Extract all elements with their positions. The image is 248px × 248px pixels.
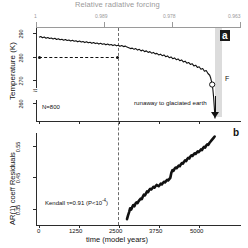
panel-a-temperature-series bbox=[39, 37, 215, 119]
figure-root: Relative radiative forcing 1 0.989 0.978… bbox=[0, 0, 248, 248]
panel-b-ar1-series bbox=[127, 137, 215, 220]
panel-a-fold-point-marker bbox=[210, 82, 215, 87]
data-curves-layer bbox=[0, 0, 248, 248]
